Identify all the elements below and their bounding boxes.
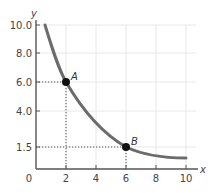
y-axis-label: y [30,8,38,19]
x-tick-label: 2 [63,173,69,184]
y-tick-label: 1.5 [16,142,32,153]
x-tick-label: 6 [123,173,129,184]
y-tick-label: 4.0 [16,106,32,117]
y-tick-label: 6.0 [16,77,32,88]
point-a [62,78,70,86]
x-axis-label: x [199,164,206,175]
point-b-label: B [131,136,138,147]
y-tick-label: 10.0 [10,20,32,31]
point-b [122,143,130,151]
x-tick-label: 8 [153,173,159,184]
x-tick-label: 10 [180,173,193,184]
guide-lines [36,82,126,169]
point-a-label: A [70,71,78,82]
x-tick-label: 4 [93,173,99,184]
x-tick-label: 0 [26,173,32,184]
y-tick-label: 8.0 [16,48,32,59]
chart: A B 10.0 8.0 6.0 4.0 1.5 0 2 4 6 8 10 y … [0,0,214,193]
